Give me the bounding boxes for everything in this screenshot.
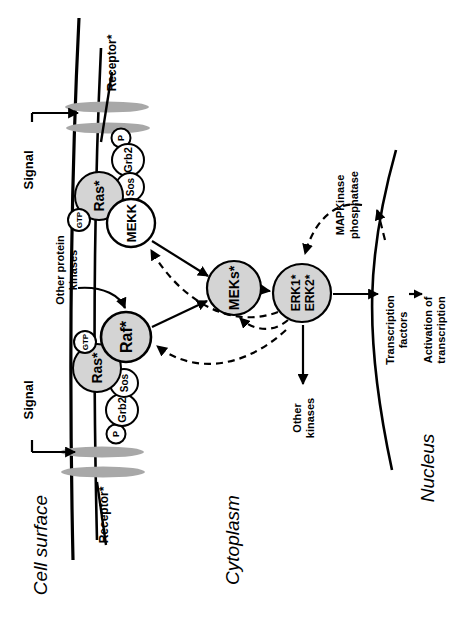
label-other-protein-kinases-line1: Other protein bbox=[54, 235, 66, 305]
receptor-ellipse bbox=[66, 123, 150, 134]
diagram-canvas: P Grb2 Sos Ras* GTP MEKK P Grb2 Sos Ras*… bbox=[0, 0, 466, 628]
label-gtp-top: GTP bbox=[75, 211, 84, 228]
label-activation-of-transcription-line2: transcription bbox=[435, 296, 447, 364]
membrane-inner-line bbox=[94, 48, 101, 540]
label-sos-top: Sos bbox=[125, 177, 136, 196]
arrow-erk-feedback-raf bbox=[157, 330, 286, 364]
label-cytoplasm: Cytoplasm bbox=[222, 495, 243, 585]
arrow-erk-feedback-meks bbox=[240, 318, 288, 329]
label-grb2-bottom: Grb2 bbox=[116, 397, 128, 423]
label-gtp-bottom: GTP bbox=[81, 333, 90, 350]
label-signal-bottom: Signal bbox=[21, 380, 36, 419]
label-mapkinase-phosphatase-line1: MAPKinase bbox=[334, 175, 346, 236]
label-activation-of-transcription-line1: Activation of bbox=[422, 296, 434, 363]
label-transcription-factors-line2: factors bbox=[397, 312, 409, 349]
label-raf: Raf* bbox=[118, 320, 135, 353]
label-meks: MEKs* bbox=[226, 265, 242, 310]
label-transcription-factors-line1: Transcription bbox=[384, 295, 396, 365]
label-erk2: ERK2* bbox=[303, 274, 317, 311]
label-receptor-bottom: Receptor* bbox=[97, 486, 111, 543]
arrow-raf-to-meks bbox=[152, 301, 207, 327]
label-mapkinase-phosphatase-line2: phosphatase bbox=[348, 171, 360, 239]
receptor-ellipse bbox=[61, 467, 145, 478]
label-cell-surface: Cell surface bbox=[30, 495, 51, 595]
label-mekk: MEKK bbox=[124, 203, 139, 242]
label-phospho-bottom: P bbox=[111, 431, 121, 437]
label-other-kinases-line1: Other bbox=[291, 403, 303, 433]
label-signal-top: Signal bbox=[21, 150, 36, 189]
label-ras-bottom: Ras* bbox=[89, 352, 105, 384]
arrow-mekk-to-meks bbox=[152, 241, 208, 276]
pathway-diagram: P Grb2 Sos Ras* GTP MEKK P Grb2 Sos Ras*… bbox=[0, 0, 466, 628]
label-grb2-top: Grb2 bbox=[122, 147, 134, 173]
label-erk1: ERK1* bbox=[289, 274, 303, 311]
label-nucleus: Nucleus bbox=[417, 433, 438, 502]
label-ras-top: Ras* bbox=[91, 180, 107, 212]
label-receptor-top: Receptor* bbox=[105, 34, 119, 91]
label-other-protein-kinases-line2: kinases bbox=[67, 250, 79, 290]
arrow-other-protein-kinases-to-raf bbox=[78, 288, 125, 308]
arrow-meks-to-erk bbox=[263, 290, 270, 291]
label-phospho-top: P bbox=[116, 135, 126, 141]
label-sos-bottom: Sos bbox=[119, 373, 130, 392]
label-other-kinases-line2: kinases bbox=[304, 398, 316, 438]
